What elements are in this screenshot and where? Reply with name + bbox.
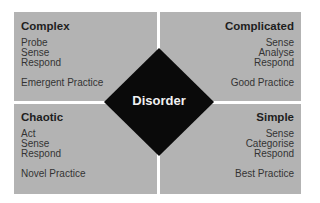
quadrant-practice: Novel Practice — [21, 168, 157, 179]
center-label: Disorder — [104, 93, 214, 108]
quadrant-practice: Best Practice — [160, 168, 294, 179]
quadrant-title: Complicated — [160, 20, 294, 33]
quadrant-title: Complex — [21, 20, 157, 33]
disorder-diamond: Disorder — [104, 48, 214, 156]
